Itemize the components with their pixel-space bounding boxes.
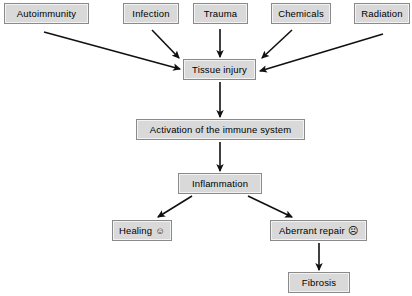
flowchart-diagram: AutoimmunityInfectionTraumaChemicalsRadi… [0, 0, 412, 296]
node-label-infection: Infection [132, 9, 169, 19]
arrow-radiation-to-tissue-injury [260, 34, 383, 71]
node-autoimmunity[interactable]: Autoimmunity [4, 3, 89, 24]
smiley-face-icon: ☺ [155, 226, 165, 236]
node-label-fibrosis: Fibrosis [302, 278, 336, 288]
node-activation[interactable]: Activation of the immune system [136, 119, 305, 140]
node-tissue-injury[interactable]: Tissue injury [183, 59, 256, 80]
node-label-activation: Activation of the immune system [150, 125, 291, 135]
node-label-autoimmunity: Autoimmunity [17, 9, 76, 19]
node-fibrosis[interactable]: Fibrosis [288, 272, 350, 293]
arrow-inflammation-to-healing [158, 196, 192, 217]
node-radiation[interactable]: Radiation [354, 3, 410, 24]
arrow-inflammation-to-aberrant-repair [248, 196, 292, 217]
node-label-healing: Healing [119, 226, 152, 236]
node-inflammation[interactable]: Inflammation [178, 173, 262, 194]
node-trauma[interactable]: Trauma [193, 3, 248, 24]
frowning-face-icon: ☹ [348, 226, 358, 236]
node-infection[interactable]: Infection [123, 3, 179, 24]
node-label-aberrant-repair: Aberrant repair [279, 226, 345, 236]
node-chemicals[interactable]: Chemicals [271, 3, 331, 24]
node-label-inflammation: Inflammation [192, 179, 248, 189]
arrow-chemicals-to-tissue-injury [262, 30, 292, 58]
arrow-layer [0, 0, 412, 296]
arrow-infection-to-tissue-injury [152, 30, 179, 58]
node-healing[interactable]: Healing☺ [112, 220, 172, 241]
node-label-radiation: Radiation [361, 9, 403, 19]
node-label-tissue-injury: Tissue injury [192, 65, 247, 75]
node-label-trauma: Trauma [204, 9, 237, 19]
node-aberrant-repair[interactable]: Aberrant repair☹ [270, 220, 367, 241]
node-label-chemicals: Chemicals [278, 9, 324, 19]
